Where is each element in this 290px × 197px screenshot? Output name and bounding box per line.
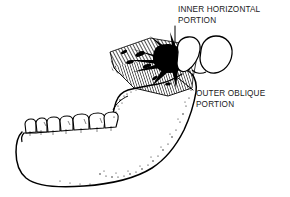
label-outer-oblique-line2: PORTION <box>196 100 234 109</box>
label-outer-oblique-line1: OUTER OBLIQUE <box>196 89 266 98</box>
tooth <box>104 112 118 128</box>
tooth <box>25 119 36 133</box>
anatomical-diagram-mandible: INNER HORIZONTAL PORTION OUTER OBLIQUE P… <box>0 0 290 197</box>
tooth <box>47 117 60 132</box>
label-inner-horizontal-line1: INNER HORIZONTAL <box>178 5 261 14</box>
figure-background <box>0 0 290 197</box>
tooth <box>60 116 73 131</box>
tooth <box>73 114 89 130</box>
label-inner-horizontal-line2: PORTION <box>178 16 216 25</box>
mandible-illustration: INNER HORIZONTAL PORTION OUTER OBLIQUE P… <box>0 0 290 197</box>
tooth <box>89 113 105 129</box>
